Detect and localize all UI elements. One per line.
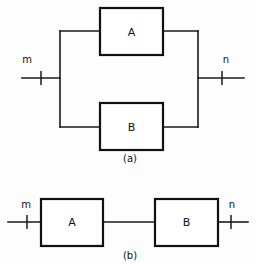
panel-a-block-b-label: B [128,121,136,134]
panel-b-block-b-label: B [183,216,191,229]
block-diagram-svg: A B m n (a) A B [0,0,256,265]
panel-b-terminal-n-label: n [229,199,235,210]
panel-a-terminal-n-label: n [223,54,229,65]
figure-root: A B m n (a) A B [0,0,256,265]
panel-b-group: A B m n (b) [8,199,248,261]
panel-b-block-a-label: A [68,216,76,229]
panel-b-caption: (b) [123,250,137,261]
panel-a-group: A B m n (a) [22,8,244,164]
panel-a-terminal-m-label: m [22,54,32,65]
panel-b-terminal-m-label: m [21,199,31,210]
panel-a-caption: (a) [123,153,137,164]
panel-a-block-a-label: A [128,26,136,39]
